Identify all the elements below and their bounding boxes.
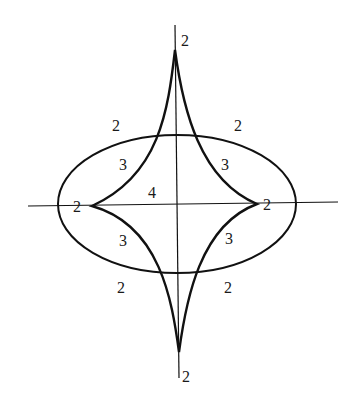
label-upper-left-outer: 2: [112, 117, 120, 134]
label-upper-right-outer: 2: [234, 117, 242, 134]
label-left-cusp: 2: [73, 198, 81, 215]
label-upper-right-inner: 3: [221, 156, 229, 173]
label-bottom-cusp: 2: [182, 368, 190, 385]
label-upper-left-inner: 3: [119, 156, 127, 173]
label-lower-left-outer: 2: [117, 279, 125, 296]
label-center: 4: [148, 184, 156, 201]
label-top-cusp: 2: [181, 32, 189, 49]
label-right-cusp: 2: [263, 196, 271, 213]
star-curve: [92, 50, 257, 352]
label-lower-right-inner: 3: [225, 230, 233, 247]
label-lower-right-outer: 2: [224, 279, 232, 296]
label-lower-left-inner: 3: [119, 232, 127, 249]
diagram-canvas: 2 2 2 2 2 2 2 2 3 3 3 3 4: [0, 0, 351, 405]
